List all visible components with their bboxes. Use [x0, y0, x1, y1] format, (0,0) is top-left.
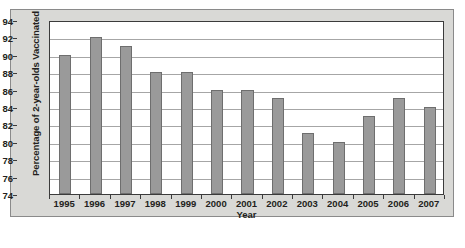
x-axis-tick-label: 2007 — [418, 198, 439, 209]
x-axis-tick-mark — [292, 195, 293, 199]
x-axis-tick-mark — [231, 195, 232, 199]
x-axis-tick-mark — [140, 195, 141, 199]
x-axis-tick-mark — [79, 195, 80, 199]
x-axis-tick-label: 2000 — [206, 198, 227, 209]
x-axis-tick-mark — [201, 195, 202, 199]
x-axis-tick-label: 2006 — [388, 198, 409, 209]
x-axis-tick-mark — [49, 195, 50, 199]
bar-chart-figure: Percentage of 2-year-olds Vaccinated Yea… — [10, 9, 454, 217]
x-axis-tick-mark — [353, 195, 354, 199]
x-axis-tick-mark — [383, 195, 384, 199]
y-axis-tick-mark — [13, 56, 17, 57]
x-axis-tick-label: 1999 — [175, 198, 196, 209]
x-axis-tick-label: 1995 — [54, 198, 75, 209]
y-axis-tick-label: 86 — [0, 85, 13, 96]
y-axis-tick-label: 80 — [0, 137, 13, 148]
y-axis-tick-mark — [13, 125, 17, 126]
y-axis-tick-label: 94 — [0, 16, 13, 27]
y-axis-tick-mark — [13, 38, 17, 39]
x-axis-title: Year — [49, 209, 444, 220]
x-axis-tick-label: 2004 — [327, 198, 348, 209]
x-axis-tick-label: 1998 — [145, 198, 166, 209]
x-axis-tick-label: 2003 — [297, 198, 318, 209]
x-axis-tick-mark — [444, 195, 445, 199]
bar — [333, 142, 345, 194]
x-axis-tick-label: 2001 — [236, 198, 257, 209]
y-axis-tick-mark — [13, 91, 17, 92]
y-axis-tick-label: 82 — [0, 120, 13, 131]
bar — [241, 90, 253, 194]
bar — [181, 72, 193, 194]
y-axis-tick-label: 78 — [0, 155, 13, 166]
x-axis-tick-mark — [414, 195, 415, 199]
bar — [393, 98, 405, 194]
y-axis-tick-mark — [13, 108, 17, 109]
y-axis-tick-mark — [13, 160, 17, 161]
y-axis-tick-mark — [13, 21, 17, 22]
y-axis-tick-label: 84 — [0, 103, 13, 114]
x-axis-tick-mark — [322, 195, 323, 199]
y-axis-tick-label: 90 — [0, 50, 13, 61]
y-axis-tick-mark — [13, 73, 17, 74]
y-axis-tick-mark — [13, 178, 17, 179]
bar — [90, 37, 102, 194]
x-axis-tick-mark — [262, 195, 263, 199]
x-axis-tick-label: 2002 — [266, 198, 287, 209]
y-axis-tick-mark — [13, 143, 17, 144]
x-axis-tick-label: 1996 — [84, 198, 105, 209]
y-axis-tick-mark — [13, 195, 17, 196]
x-axis-tick-label: 2005 — [357, 198, 378, 209]
bar — [424, 107, 436, 194]
y-axis-title: Percentage of 2-year-olds Vaccinated — [30, 2, 41, 186]
bar — [302, 133, 314, 194]
x-axis-tick-mark — [171, 195, 172, 199]
x-axis-tick-label: 1997 — [114, 198, 135, 209]
bar — [59, 55, 71, 194]
bar — [120, 46, 132, 194]
bar — [363, 116, 375, 194]
bars-layer — [50, 22, 443, 194]
bar — [150, 72, 162, 194]
y-axis-tick-label: 92 — [0, 33, 13, 44]
y-axis-tick-label: 76 — [0, 172, 13, 183]
x-axis-tick-mark — [110, 195, 111, 199]
bar — [272, 98, 284, 194]
y-axis-tick-label: 74 — [0, 190, 13, 201]
plot-area — [49, 21, 444, 195]
y-axis-tick-label: 88 — [0, 68, 13, 79]
bar — [211, 90, 223, 194]
